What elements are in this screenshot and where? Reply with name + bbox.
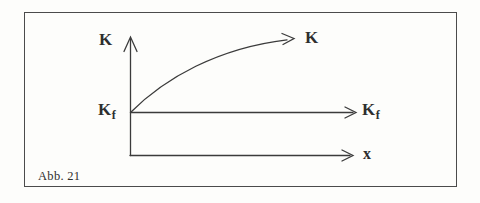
figure-caption: Abb. 21 [38,169,80,184]
y-axis-label-text: K [99,30,113,49]
arrowhead-right-icon [282,34,294,45]
x-axis-label: x [363,146,372,162]
kf-right-label: Kf [362,101,380,118]
curve-label-text: K [305,28,319,47]
figure: K K Kf Kf x Abb. 21 [0,0,480,203]
kf-left-label: Kf [98,101,116,118]
kf-right-main: K [362,100,376,119]
kf-left-subscript: f [112,108,117,122]
x-axis-label-text: x [363,145,372,162]
kf-right-subscript: f [376,108,381,122]
y-axis-label: K [99,31,113,48]
curve-label: K [305,29,319,46]
kf-left-main: K [98,100,112,119]
cost-curve [131,40,288,113]
